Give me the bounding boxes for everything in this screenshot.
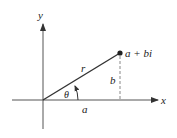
vertical-leg-label: b [110,74,116,86]
angle-arc-icon [75,86,78,100]
x-axis-label: x [160,94,166,106]
radius-vector [43,53,120,100]
complex-plane-diagram: y x a + bi r b θ a [0,0,177,138]
horizontal-leg-label: a [82,103,88,115]
point-dot [117,50,122,55]
point-label: a + bi [125,47,152,59]
y-axis-label: y [37,9,43,21]
angle-label: θ [64,89,69,100]
radius-label: r [81,62,86,74]
